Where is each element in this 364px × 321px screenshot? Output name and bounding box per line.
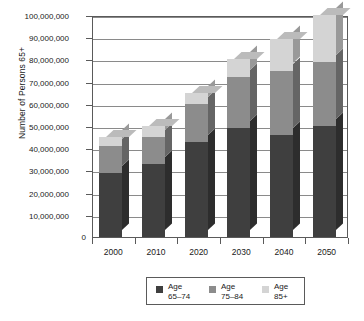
x-axis-tick-label: 2020	[179, 247, 219, 257]
gridline	[93, 195, 347, 196]
y-axis-tick-label: 20,000,000	[1, 190, 69, 199]
x-axis-tick-mark	[305, 238, 306, 244]
bar-segment-front	[142, 137, 165, 164]
bar-top-cap	[106, 130, 137, 137]
bar-segment[interactable]	[142, 164, 165, 237]
bar-segment-side	[250, 64, 257, 122]
legend-label-line1: Age	[274, 282, 288, 292]
bar-segment[interactable]	[142, 137, 165, 164]
x-axis-tick-mark	[92, 238, 93, 244]
bar-segment-front	[313, 126, 336, 237]
x-axis-tick-label: 2000	[93, 247, 133, 257]
stacked-bar-chart: Number of Persons 65+ 10,000,00020,000,0…	[0, 0, 364, 321]
chart-legend: Age65–74Age75–84Age85+	[146, 277, 305, 305]
legend-label: Age85+	[274, 282, 288, 301]
gridline	[93, 128, 347, 129]
gridline	[93, 84, 347, 85]
bar-top-cap	[234, 52, 265, 59]
gridline	[93, 106, 347, 107]
legend-label-line2: 85+	[274, 292, 288, 302]
legend-label-line1: Age	[221, 282, 243, 292]
x-axis-tick-label: 2030	[221, 247, 261, 257]
x-axis-tick-label: 2010	[136, 247, 176, 257]
bar-segment-front	[99, 137, 122, 146]
bar-segment-front	[227, 59, 250, 77]
bar-segment-side	[293, 57, 300, 128]
bar-segment-side	[336, 48, 343, 119]
legend-label-line1: Age	[168, 282, 190, 292]
bar-segment[interactable]	[99, 137, 122, 146]
bar-segment-front	[270, 71, 293, 135]
bar-segment-side	[208, 90, 215, 134]
bar-segment[interactable]	[227, 59, 250, 77]
bar-segment[interactable]	[99, 173, 122, 237]
bar-segment[interactable]	[227, 77, 250, 128]
bar-segment[interactable]	[313, 15, 336, 62]
y-axis-tick-label: 60,000,000	[1, 101, 69, 110]
bar-segment-side	[208, 128, 215, 230]
bar-segment-front	[185, 93, 208, 104]
bar-segment[interactable]	[313, 126, 336, 237]
bar-segment[interactable]	[185, 104, 208, 142]
gridline	[93, 150, 347, 151]
gridline	[93, 172, 347, 173]
bar-top-cap	[192, 86, 223, 93]
legend-swatch	[156, 286, 163, 293]
gridline	[93, 17, 347, 18]
bar-segment-side	[336, 112, 343, 230]
x-axis-tick-mark	[263, 238, 264, 244]
bar-segment-side	[122, 159, 129, 230]
bar-segment[interactable]	[185, 93, 208, 104]
y-axis-tick-label: 70,000,000	[1, 79, 69, 88]
bar-segment-front	[142, 126, 165, 137]
bar-segment-front	[185, 104, 208, 142]
legend-label: Age65–74	[168, 282, 190, 301]
bar-segment-front	[227, 77, 250, 128]
y-axis-tick-label: 90,000,000	[1, 34, 69, 43]
bar-segment[interactable]	[270, 39, 293, 70]
x-axis-tick-mark	[220, 238, 221, 244]
gridline	[93, 39, 347, 40]
bar-segment[interactable]	[270, 135, 293, 237]
y-axis-tick-label: 30,000,000	[1, 167, 69, 176]
bar-segment[interactable]	[227, 128, 250, 237]
bar-segment-front	[270, 39, 293, 70]
bar-segment[interactable]	[99, 146, 122, 173]
bar-top-cap	[149, 119, 180, 126]
bar-segment[interactable]	[270, 71, 293, 135]
bar-segment[interactable]	[313, 62, 336, 126]
x-axis-tick-label: 2050	[307, 247, 347, 257]
bar-segment-side	[250, 115, 257, 230]
bar-segment-side	[293, 121, 300, 230]
bar-segment-side	[165, 150, 172, 230]
y-axis-tick-label: 80,000,000	[1, 56, 69, 65]
x-axis-tick-label: 2040	[264, 247, 304, 257]
bar-segment-front	[185, 142, 208, 237]
bar-top-cap	[320, 8, 351, 15]
bar-segment-front	[313, 62, 336, 126]
bar-segment-front	[99, 173, 122, 237]
y-axis-zero-label: 0	[62, 233, 86, 242]
x-axis-tick-mark	[348, 238, 349, 244]
bar-segment[interactable]	[142, 126, 165, 137]
legend-label-line2: 75–84	[221, 292, 243, 302]
bar-segment-front	[142, 164, 165, 237]
plot-area	[92, 16, 348, 238]
bar-segment[interactable]	[185, 142, 208, 237]
legend-swatch	[209, 286, 216, 293]
gridline	[93, 217, 347, 218]
bar-segment-front	[99, 146, 122, 173]
legend-label-line2: 65–74	[168, 292, 190, 302]
y-axis-tick-label: 100,000,000	[1, 12, 69, 21]
y-axis-tick-label: 50,000,000	[1, 123, 69, 132]
bar-segment-front	[313, 15, 336, 62]
y-axis-tick-label: 40,000,000	[1, 145, 69, 154]
x-axis-tick-mark	[177, 238, 178, 244]
bar-segment-front	[227, 128, 250, 237]
legend-swatch	[262, 286, 269, 293]
bar-segment-front	[270, 135, 293, 237]
gridline	[93, 61, 347, 62]
legend-label: Age75–84	[221, 282, 243, 301]
x-axis-tick-mark	[135, 238, 136, 244]
y-axis-tick-label: 10,000,000	[1, 212, 69, 221]
